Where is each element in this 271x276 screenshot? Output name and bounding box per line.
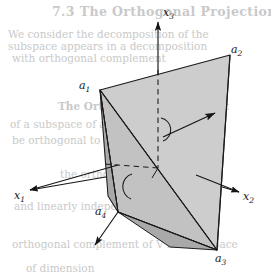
tetrahedron-diagram — [0, 0, 271, 276]
axis-label-x1: x1 — [14, 189, 25, 204]
vertex-label-a4: a4 — [95, 205, 106, 220]
figure-canvas: 7.3 The Orthogonal Projection We conside… — [0, 0, 271, 276]
vertex-label-a2: a2 — [231, 43, 242, 58]
axis-label-x2: x2 — [243, 190, 254, 205]
vertex-label-a3: a3 — [215, 252, 226, 267]
vertex-label-a1: a1 — [79, 79, 90, 94]
axis-label-x3: x3 — [163, 6, 174, 21]
